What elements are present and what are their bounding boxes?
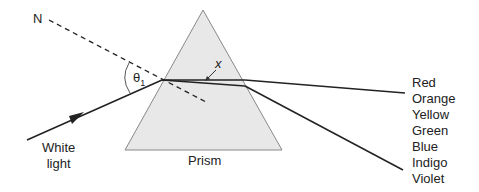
arrow-head-icon (69, 112, 84, 124)
spectrum-indigo: Indigo (412, 155, 455, 171)
spectrum-red: Red (412, 75, 455, 91)
white-light-label: White light (42, 140, 75, 172)
spectrum-yellow: Yellow (412, 107, 455, 123)
red-ray-out (245, 80, 405, 93)
spectrum-list: Red Orange Yellow Green Blue Indigo Viol… (412, 75, 455, 187)
x-label: x (215, 56, 222, 72)
white-light-line1: White (42, 140, 75, 156)
angle-arc (125, 63, 130, 93)
spectrum-violet: Violet (412, 171, 455, 187)
angle-label: θ1 (133, 70, 145, 91)
angle-subscript: 1 (140, 78, 145, 88)
spectrum-blue: Blue (412, 139, 455, 155)
white-light-line2: light (42, 156, 75, 172)
prism-label: Prism (188, 153, 221, 169)
spectrum-orange: Orange (412, 91, 455, 107)
spectrum-green: Green (412, 123, 455, 139)
normal-label: N (33, 11, 42, 27)
